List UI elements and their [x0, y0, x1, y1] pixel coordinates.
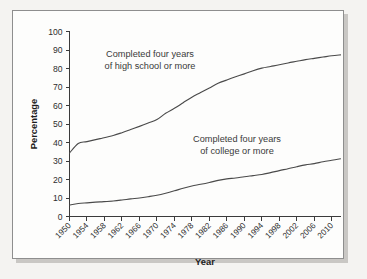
- y-tick-label: 50: [53, 119, 63, 129]
- plot-area: 0102030405060708090100 19501954195819621…: [0, 0, 367, 279]
- y-tick-label: 20: [53, 175, 63, 185]
- y-tick-label: 100: [48, 27, 63, 37]
- x-tick-label: 1982: [194, 221, 214, 241]
- college-label-line1: Completed four years: [193, 134, 281, 144]
- x-tick-label: 1950: [54, 221, 74, 241]
- y-tick-label: 30: [53, 156, 63, 166]
- x-tick-label: 1978: [176, 221, 196, 241]
- series-lines: [70, 55, 341, 205]
- y-tick-label: 0: [58, 212, 63, 222]
- y-tick-label: 40: [53, 138, 63, 148]
- chart-screenshot: 0102030405060708090100 19501954195819621…: [0, 0, 367, 279]
- x-tick-label: 1994: [246, 221, 266, 241]
- y-axis: 0102030405060708090100: [48, 27, 69, 222]
- college-label-line2: of college or more: [200, 146, 274, 156]
- x-tick-label: 1998: [263, 221, 283, 241]
- y-tick-label: 80: [53, 64, 63, 74]
- y-tick-label: 60: [53, 101, 63, 111]
- x-tick-label: 1966: [124, 221, 144, 241]
- x-axis-title: Year: [195, 256, 215, 267]
- y-tick-label: 90: [53, 45, 63, 55]
- x-tick-label: 1958: [89, 221, 109, 241]
- x-tick-label: 2010: [316, 221, 336, 241]
- x-tick-label: 1962: [106, 221, 126, 241]
- y-axis-title: Percentage: [28, 99, 39, 150]
- x-tick-label: 1954: [71, 221, 91, 241]
- x-tick-label: 1970: [141, 221, 161, 241]
- chart-annotations: Completed four yearsof high school or mo…: [105, 49, 282, 156]
- highschool-label-line1: Completed four years: [106, 49, 194, 59]
- x-tick-label: 2002: [281, 221, 301, 241]
- highschool-label-line2: of high school or more: [105, 61, 196, 71]
- series-line-college: [70, 159, 341, 205]
- x-tick-label: 1974: [159, 221, 179, 241]
- y-tick-label: 10: [53, 193, 63, 203]
- y-tick-label: 70: [53, 82, 63, 92]
- line-chart: 0102030405060708090100 19501954195819621…: [0, 0, 367, 279]
- x-axis: 1950195419581962196619701974197819821986…: [54, 217, 341, 241]
- x-tick-label: 1990: [229, 221, 249, 241]
- x-tick-label: 1986: [211, 221, 231, 241]
- x-tick-label: 2006: [298, 221, 318, 241]
